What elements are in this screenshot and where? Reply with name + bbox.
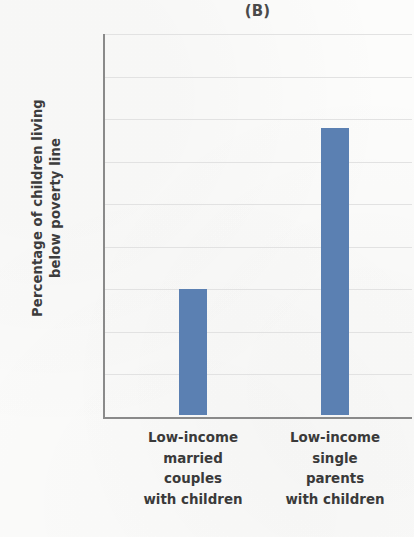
- y-axis-line: [103, 34, 105, 418]
- category-0-line-4: with children: [118, 490, 268, 511]
- gridline-90: [103, 34, 412, 35]
- category-1-line-2: single: [260, 449, 410, 470]
- gridline-30: [103, 289, 412, 290]
- gridline-10: [103, 374, 412, 375]
- category-0-line-3: couples: [118, 469, 268, 490]
- category-0-line-1: Low-income: [118, 428, 268, 449]
- y-axis-title-line-2: below poverty line: [47, 43, 65, 373]
- category-label-single-parents: Low-income single parents with children: [260, 428, 410, 510]
- gridline-60: [103, 162, 412, 163]
- figure-container: (B) Percentage of children living below …: [0, 0, 414, 537]
- gridline-20: [103, 332, 412, 333]
- gridline-40: [103, 247, 412, 248]
- gridline-80: [103, 77, 412, 78]
- x-axis-category-labels: Low-income married couples with children…: [103, 428, 412, 528]
- x-axis-line: [103, 417, 412, 419]
- bar-low-income-single-parents: [321, 128, 349, 415]
- category-1-line-1: Low-income: [260, 428, 410, 449]
- category-label-married-couples: Low-income married couples with children: [118, 428, 268, 510]
- y-axis-title-line-1: Percentage of children living: [29, 43, 47, 373]
- plot-area: 90 80 70 60 50 40 30 20 10: [103, 34, 412, 417]
- category-0-line-2: married: [118, 449, 268, 470]
- gridline-50: [103, 204, 412, 205]
- category-1-line-3: parents: [260, 469, 410, 490]
- chart-title: (B): [103, 2, 412, 20]
- bar-low-income-married-couples: [179, 289, 207, 415]
- y-axis-title: Percentage of children living below pove…: [29, 43, 65, 373]
- category-1-line-4: with children: [260, 490, 410, 511]
- gridline-70: [103, 119, 412, 120]
